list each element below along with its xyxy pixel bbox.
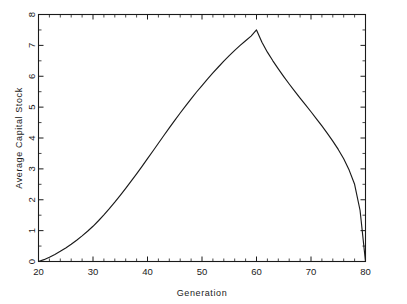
x-tick-label: 80: [360, 266, 371, 277]
x-tick-label: 20: [33, 266, 44, 277]
x-tick-label: 70: [306, 266, 317, 277]
x-tick-label: 50: [197, 266, 208, 277]
x-tick-label: 60: [251, 266, 262, 277]
y-tick-label: 3: [26, 166, 37, 171]
x-tick-label: 40: [142, 266, 153, 277]
average-capital-stock-line-chart: 20304050607080 012345678 Generation Aver…: [0, 0, 407, 304]
chart-figure: 20304050607080 012345678 Generation Aver…: [0, 0, 407, 304]
y-tick-label: 8: [26, 12, 37, 17]
y-tick-label: 2: [26, 197, 37, 202]
y-tick-label: 0: [26, 259, 37, 264]
y-axis-title: Average Capital Stock: [14, 87, 24, 188]
y-tick-label: 7: [26, 43, 37, 48]
y-tick-label: 4: [26, 135, 37, 140]
x-tick-label: 30: [88, 266, 99, 277]
x-axis-title: Generation: [177, 288, 228, 298]
chart-background: [0, 0, 407, 304]
y-tick-label: 5: [26, 104, 37, 109]
y-tick-label: 6: [26, 74, 37, 79]
y-tick-label: 1: [26, 228, 37, 233]
